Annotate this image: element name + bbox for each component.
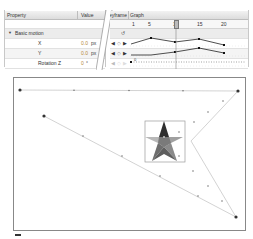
path-frame-markers xyxy=(73,89,224,201)
motion-path xyxy=(20,90,238,217)
motion-path-canvas[interactable] xyxy=(1,1,253,239)
scroll-marker[interactable] xyxy=(15,234,21,236)
stage[interactable] xyxy=(13,77,246,231)
star-symbol xyxy=(145,121,183,161)
path-keyframes xyxy=(18,88,239,218)
